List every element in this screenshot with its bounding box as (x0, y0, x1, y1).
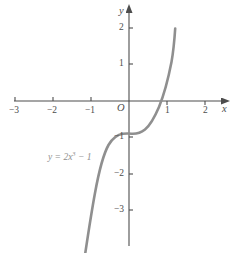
y-tick-label-2: 2 (119, 23, 124, 33)
y-axis-label: y (119, 6, 124, 17)
cartesian-plot (0, 0, 235, 253)
curve-equation-lhs: y = 2x (48, 152, 72, 162)
graph-figure: −3 −2 −1 1 2 2 1 −1 −2 −3 y x O y = 2x3 … (0, 0, 235, 253)
y-tick-label--1: −1 (114, 132, 124, 142)
y-tick-label--2: −2 (114, 169, 124, 179)
curve-equation-label: y = 2x3 − 1 (48, 153, 92, 163)
curve-equation-rhs: − 1 (76, 152, 92, 162)
x-tick-label--3: −3 (9, 106, 19, 116)
x-tick-label--1: −1 (85, 106, 95, 116)
x-axis-label: x (222, 104, 227, 115)
x-tick-label-2: 2 (203, 106, 208, 116)
origin-label: O (117, 103, 125, 114)
x-tick-label--2: −2 (47, 106, 57, 116)
y-tick-label-1: 1 (119, 59, 124, 69)
x-tick-label-1: 1 (165, 106, 170, 116)
y-tick-label--3: −3 (114, 205, 124, 215)
y-axis-ticks (129, 28, 133, 210)
curve-cubic (85, 29, 175, 253)
